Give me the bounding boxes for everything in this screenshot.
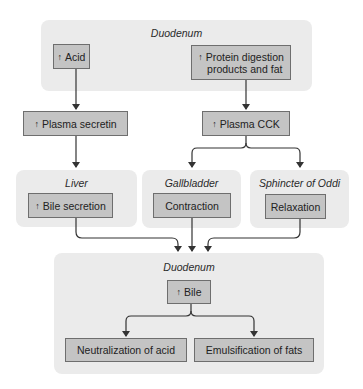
plasma-cck-box: ↑ Plasma CCK bbox=[202, 111, 290, 136]
relaxation-text: Relaxation bbox=[271, 201, 321, 213]
contraction-box: Contraction bbox=[153, 193, 231, 218]
increase-arrow-icon: ↑ bbox=[34, 118, 39, 130]
protein-text: Protein digestion products and fat bbox=[206, 51, 284, 75]
plasma-secretin-text: Plasma secretin bbox=[42, 118, 117, 130]
arrowhead-icon bbox=[72, 104, 80, 110]
arrowhead-icon bbox=[72, 162, 80, 168]
gallbladder-label: Gallbladder bbox=[142, 177, 241, 189]
arrowhead-icon bbox=[296, 162, 304, 168]
emulsification-text: Emulsification of fats bbox=[206, 344, 302, 356]
sphincter-label: Sphincter of Oddi bbox=[250, 177, 349, 189]
increase-arrow-icon: ↑ bbox=[212, 118, 217, 130]
neutralization-box: Neutralization of acid bbox=[65, 338, 187, 362]
liver-label: Liver bbox=[16, 177, 137, 189]
contraction-text: Contraction bbox=[165, 200, 219, 212]
arrow-cck-to-gallbladder bbox=[192, 136, 246, 167]
emulsification-box: Emulsification of fats bbox=[194, 338, 314, 362]
arrowhead-icon bbox=[188, 246, 196, 252]
bile-secretion-text: Bile secretion bbox=[43, 200, 106, 212]
increase-arrow-icon: ↑ bbox=[176, 286, 181, 298]
neutralization-text: Neutralization of acid bbox=[77, 344, 175, 356]
bile-box: ↑ Bile bbox=[167, 280, 211, 304]
arrowhead-icon bbox=[174, 246, 182, 252]
relaxation-box: Relaxation bbox=[265, 194, 326, 219]
acid-box: ↑ Acid bbox=[53, 44, 90, 69]
increase-arrow-icon: ↑ bbox=[35, 200, 40, 212]
acid-text: Acid bbox=[65, 51, 85, 63]
protein-box: ↑ Protein digestion products and fat bbox=[191, 45, 291, 80]
increase-arrow-icon: ↑ bbox=[58, 51, 63, 63]
protein-text-line2: products and fat bbox=[207, 63, 282, 75]
arrow-cck-to-sphincter bbox=[246, 143, 300, 167]
plasma-secretin-box: ↑ Plasma secretin bbox=[23, 111, 128, 136]
plasma-cck-text: Plasma CCK bbox=[220, 118, 280, 130]
protein-text-line1: Protein digestion bbox=[206, 51, 284, 63]
increase-arrow-icon: ↑ bbox=[198, 51, 203, 63]
arrowhead-icon bbox=[204, 246, 212, 252]
arrowhead-icon bbox=[188, 162, 196, 168]
arrowhead-icon bbox=[242, 104, 250, 110]
bile-text: Bile bbox=[184, 286, 202, 298]
bile-secretion-box: ↑ Bile secretion bbox=[28, 193, 113, 218]
top-duodenum-label: Duodenum bbox=[41, 27, 312, 39]
bottom-duodenum-label: Duodenum bbox=[54, 261, 324, 273]
